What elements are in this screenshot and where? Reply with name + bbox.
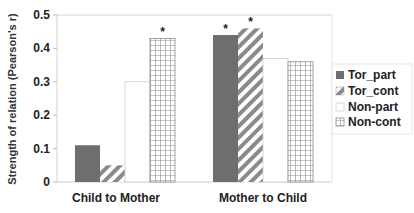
y-tick-label: 0.1 [33, 142, 50, 156]
legend-swatch-non-part [336, 103, 344, 111]
y-tick-label: 0.5 [33, 8, 50, 22]
bar-chart: 00.10.20.30.40.5 Strength of relation (P… [0, 0, 414, 213]
legend-label-non-cont: Non-cont [348, 115, 401, 129]
bar-tor-cont-mother-to-child [238, 28, 263, 182]
legend-swatch-tor-part [336, 71, 344, 79]
legend-swatch-tor-cont [336, 87, 344, 95]
y-tick-label: 0.3 [33, 75, 50, 89]
significance-star: * [248, 15, 253, 29]
bar-tor-part-mother-to-child [213, 35, 238, 182]
bar-tor-cont-child-to-mother [100, 165, 125, 182]
bar-non-part-child-to-mother [125, 82, 150, 182]
legend-label-tor-cont: Tor_cont [348, 84, 398, 98]
bar-non-cont-mother-to-child [288, 62, 313, 182]
bar-tor-part-child-to-mother [75, 145, 100, 182]
y-axis: 00.10.20.30.40.5 [33, 8, 57, 189]
bars: *** [75, 15, 313, 182]
significance-star: * [223, 22, 228, 36]
y-tick-label: 0 [43, 175, 50, 189]
y-axis-label: Strength of relation (Pearson's r) [6, 13, 18, 185]
bar-non-cont-child-to-mother [150, 38, 175, 182]
legend: Tor_part Tor_cont Non-part Non-cont [332, 64, 412, 134]
category-label-mother-to-child: Mother to Child [219, 191, 307, 205]
y-tick-label: 0.4 [33, 41, 50, 55]
legend-label-tor-part: Tor_part [348, 68, 396, 82]
y-tick-label: 0.2 [33, 108, 50, 122]
category-label-child-to-mother: Child to Mother [72, 191, 160, 205]
bar-non-part-mother-to-child [263, 58, 288, 182]
significance-star: * [160, 25, 165, 39]
legend-swatch-non-cont [336, 118, 344, 126]
legend-label-non-part: Non-part [348, 100, 398, 114]
